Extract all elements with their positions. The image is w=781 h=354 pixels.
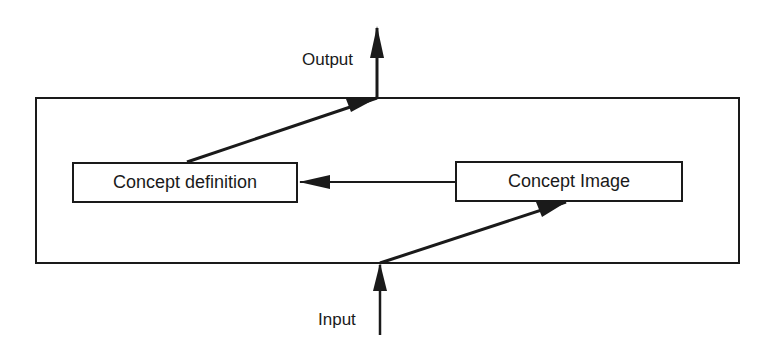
concept-image-label: Concept Image [508,171,630,192]
image-to-definition-arrowhead-icon [299,175,330,189]
concept-image-node: Concept Image [455,161,683,202]
output-arrowhead-icon [370,26,384,58]
definition-to-output-arrowhead-icon [346,98,377,112]
concept-definition-node: Concept definition [72,162,298,203]
input-to-image-arrow [380,202,566,263]
input-label: Input [318,310,356,330]
output-label: Output [302,50,353,70]
concept-definition-label: Concept definition [113,172,257,193]
input-arrowhead-icon [373,263,387,291]
input-to-image-arrowhead-icon [536,201,568,217]
definition-to-output-arrow [187,98,377,162]
